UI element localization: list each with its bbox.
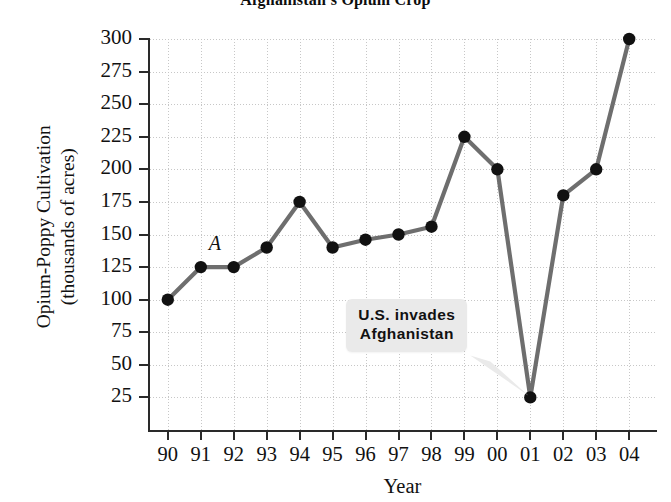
y-tick-label-150: 150 bbox=[101, 221, 133, 246]
data-point-03 bbox=[590, 163, 602, 175]
x-tick-label-00: 00 bbox=[487, 443, 508, 466]
y-axis-title-line2: (thousands of acres) bbox=[56, 27, 80, 427]
y-tick-200: 200 bbox=[139, 168, 150, 170]
x-tick-label-04: 04 bbox=[619, 443, 640, 466]
x-tick-04 bbox=[628, 430, 630, 440]
x-tick-98 bbox=[430, 430, 432, 440]
y-tick-label-300: 300 bbox=[101, 25, 133, 50]
x-tick-94 bbox=[299, 430, 301, 440]
x-tick-label-02: 02 bbox=[553, 443, 574, 466]
y-tick-125: 125 bbox=[139, 266, 150, 268]
x-tick-02 bbox=[562, 430, 564, 440]
y-tick-label-25: 25 bbox=[111, 383, 132, 408]
y-tick-275: 275 bbox=[139, 71, 150, 73]
data-point-00 bbox=[491, 163, 503, 175]
y-tick-175: 175 bbox=[139, 201, 150, 203]
y-tick-label-125: 125 bbox=[101, 253, 133, 278]
x-tick-label-94: 94 bbox=[289, 443, 310, 466]
chart-figure: Afghanistan's Opium Crop Opium-Poppy Cul… bbox=[0, 0, 671, 502]
y-tick-150: 150 bbox=[139, 234, 150, 236]
y-tick-label-200: 200 bbox=[101, 155, 133, 180]
data-point-01 bbox=[524, 391, 536, 403]
y-tick-label-250: 250 bbox=[101, 90, 133, 115]
data-point-93 bbox=[261, 241, 273, 253]
data-point-98 bbox=[425, 221, 437, 233]
data-point-91 bbox=[195, 261, 207, 273]
x-tick-93 bbox=[266, 430, 268, 440]
data-point-97 bbox=[392, 228, 404, 240]
x-tick-label-92: 92 bbox=[223, 443, 244, 466]
y-tick-225: 225 bbox=[139, 136, 150, 138]
y-tick-label-100: 100 bbox=[101, 286, 133, 311]
x-tick-label-93: 93 bbox=[256, 443, 277, 466]
callout-line-1: U.S. invades bbox=[358, 306, 455, 323]
x-tick-label-03: 03 bbox=[586, 443, 607, 466]
y-tick-50: 50 bbox=[139, 364, 150, 366]
x-tick-96 bbox=[365, 430, 367, 440]
x-tick-label-98: 98 bbox=[421, 443, 442, 466]
y-tick-label-75: 75 bbox=[111, 318, 132, 343]
y-tick-25: 25 bbox=[139, 396, 150, 398]
data-point-99 bbox=[458, 131, 470, 143]
x-tick-label-91: 91 bbox=[191, 443, 212, 466]
x-tick-03 bbox=[595, 430, 597, 440]
x-tick-label-99: 99 bbox=[454, 443, 475, 466]
data-point-92 bbox=[228, 261, 240, 273]
x-tick-00 bbox=[496, 430, 498, 440]
x-tick-01 bbox=[529, 430, 531, 440]
x-tick-90 bbox=[167, 430, 169, 440]
chart-title: Afghanistan's Opium Crop bbox=[0, 0, 671, 9]
x-tick-label-01: 01 bbox=[520, 443, 541, 466]
x-axis-title: Year bbox=[150, 475, 655, 498]
x-tick-97 bbox=[398, 430, 400, 440]
x-tick-92 bbox=[233, 430, 235, 440]
callout-line-2: Afghanistan bbox=[358, 325, 455, 344]
us-invades-callout: U.S. invades Afghanistan bbox=[346, 299, 467, 352]
data-series-opium-cultivation bbox=[150, 39, 655, 430]
x-tick-95 bbox=[332, 430, 334, 440]
y-tick-label-275: 275 bbox=[101, 58, 133, 83]
y-tick-100: 100 bbox=[139, 299, 150, 301]
data-point-96 bbox=[359, 234, 371, 246]
x-tick-label-90: 90 bbox=[158, 443, 179, 466]
x-tick-label-97: 97 bbox=[388, 443, 409, 466]
y-tick-300: 300 bbox=[139, 38, 150, 40]
x-tick-99 bbox=[463, 430, 465, 440]
data-point-02 bbox=[557, 189, 569, 201]
data-point-90 bbox=[162, 294, 174, 306]
x-axis-spine bbox=[148, 430, 657, 432]
data-point-95 bbox=[326, 241, 338, 253]
y-tick-75: 75 bbox=[139, 331, 150, 333]
y-tick-label-50: 50 bbox=[111, 351, 132, 376]
x-tick-label-95: 95 bbox=[322, 443, 343, 466]
point-label-a: A bbox=[209, 232, 221, 255]
y-tick-label-175: 175 bbox=[101, 188, 133, 213]
y-axis-title-line1: Opium-Poppy Cultivation bbox=[33, 125, 54, 328]
plot-area: 300275250225200175150125100755025 909192… bbox=[150, 39, 655, 430]
data-point-04 bbox=[623, 33, 635, 45]
x-tick-label-96: 96 bbox=[355, 443, 376, 466]
data-point-94 bbox=[293, 196, 305, 208]
y-tick-label-225: 225 bbox=[101, 123, 133, 148]
y-axis-title: Opium-Poppy Cultivation (thousands of ac… bbox=[32, 27, 80, 427]
x-tick-91 bbox=[200, 430, 202, 440]
y-tick-250: 250 bbox=[139, 103, 150, 105]
